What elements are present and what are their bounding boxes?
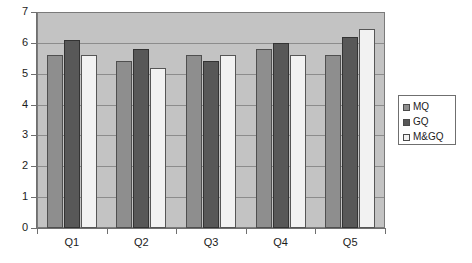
bar: [81, 55, 97, 228]
legend-item-mgq[interactable]: M&GQ: [403, 130, 455, 144]
legend-swatch-icon-mq: [403, 104, 410, 111]
bar: [359, 29, 375, 228]
x-axis-tick-label: Q1: [42, 236, 102, 248]
bar-chart: 01234567 Q1Q2Q3Q4Q5 MQ GQ M&GQ: [0, 0, 472, 263]
y-axis-tick: [31, 197, 37, 198]
bar: [220, 55, 236, 228]
chart-legend: MQ GQ M&GQ: [398, 95, 456, 145]
x-axis-tick-label: Q4: [251, 236, 311, 248]
legend-label-mgq: M&GQ: [413, 132, 444, 142]
legend-label-gq: GQ: [413, 117, 429, 127]
bar: [256, 49, 272, 228]
x-axis-tick: [107, 229, 108, 234]
bar: [64, 40, 80, 228]
y-axis-tick-label: 1: [4, 191, 28, 202]
legend-item-mq[interactable]: MQ: [403, 100, 455, 114]
y-axis-tick: [31, 166, 37, 167]
bar: [133, 49, 149, 228]
y-axis-tick: [31, 135, 37, 136]
y-axis-tick: [31, 74, 37, 75]
x-axis-tick-label: Q3: [181, 236, 241, 248]
y-axis-tick-label: 3: [4, 129, 28, 140]
bar: [290, 55, 306, 228]
legend-swatch-icon-gq: [403, 119, 410, 126]
x-axis-tick: [37, 229, 38, 234]
y-axis-tick-label: 5: [4, 68, 28, 79]
y-axis-tick: [31, 43, 37, 44]
bar: [150, 68, 166, 228]
x-axis-tick-label: Q2: [111, 236, 171, 248]
x-axis-tick: [176, 229, 177, 234]
y-axis-tick: [31, 105, 37, 106]
y-axis-tick: [31, 12, 37, 13]
y-axis-tick-label: 4: [4, 99, 28, 110]
legend-label-mq: MQ: [413, 102, 429, 112]
bar: [203, 61, 219, 228]
x-axis-tick: [385, 229, 386, 234]
x-axis-tick: [246, 229, 247, 234]
y-axis-tick-label: 2: [4, 160, 28, 171]
y-axis-tick-label: 0: [4, 222, 28, 233]
x-axis-line: [36, 228, 386, 229]
bar: [47, 55, 63, 228]
legend-swatch-icon-mgq: [403, 134, 410, 141]
bar: [342, 37, 358, 228]
x-axis-tick-label: Q5: [320, 236, 380, 248]
y-axis-tick-label: 7: [4, 6, 28, 17]
legend-item-gq[interactable]: GQ: [403, 115, 455, 129]
y-axis-tick-label: 6: [4, 37, 28, 48]
bar: [325, 55, 341, 228]
x-axis-tick: [315, 229, 316, 234]
bar: [186, 55, 202, 228]
grid-line: [38, 43, 384, 44]
bar: [116, 61, 132, 228]
bar: [273, 43, 289, 228]
